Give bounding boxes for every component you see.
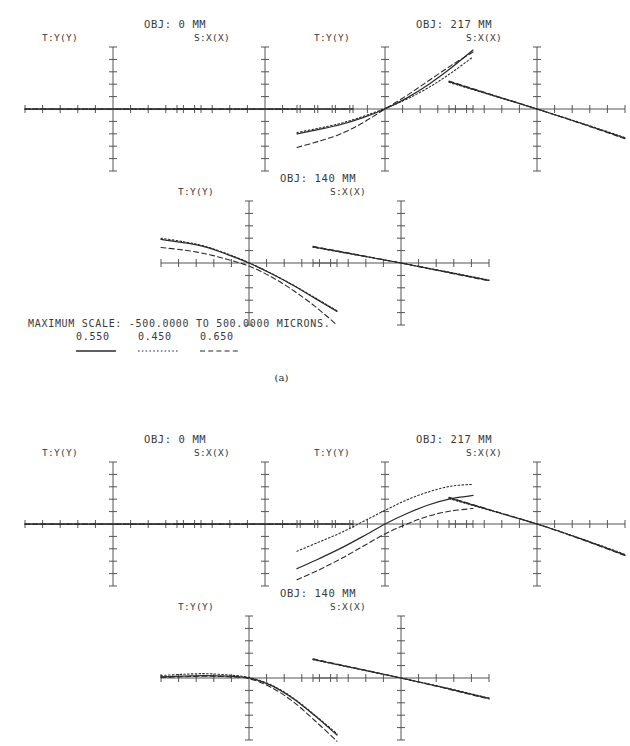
obj-field-title: OBJ: 0 MM [144, 18, 206, 30]
legend-line-style-dotted [138, 344, 178, 355]
legend-wavelength-value: 0.550 [76, 331, 110, 342]
maximum-scale-text: MAXIMUM SCALE: -500.0000 TO 500.0000 MIC… [28, 318, 330, 329]
sagittal-ray-fan-plot [306, 609, 496, 746]
obj-field-title: OBJ: 217 MM [416, 18, 492, 30]
obj-field-title: OBJ: 140 MM [280, 172, 356, 184]
obj-field-title: OBJ: 0 MM [144, 433, 206, 445]
legend-line-style-solid [76, 344, 116, 355]
legend-wavelength-value: 0.650 [200, 331, 234, 342]
sagittal-ray-fan-plot [442, 40, 630, 178]
sagittal-ray-fan-plot [306, 194, 496, 332]
figure-b: OBJ: 0 MMT:Y(Y)S:X(X)OBJ: 217 MMT:Y(Y)S:… [0, 415, 563, 740]
obj-field-title: OBJ: 140 MM [280, 587, 356, 599]
legend-wavelength-value: 0.450 [138, 331, 172, 342]
figure-caption: (a) [0, 372, 563, 383]
figure-a: OBJ: 0 MMT:Y(Y)S:X(X)OBJ: 217 MMT:Y(Y)S:… [0, 0, 563, 395]
obj-field-title: OBJ: 217 MM [416, 433, 492, 445]
legend-line-style-dashed [200, 344, 240, 355]
sagittal-ray-fan-plot [442, 455, 630, 593]
